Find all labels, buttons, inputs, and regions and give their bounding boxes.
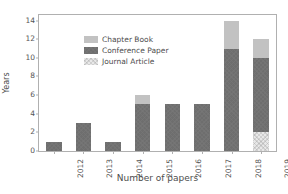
bar-chart-figure: Years 0246810121420122013201420152016201… bbox=[0, 0, 288, 194]
bar-segment-chapter bbox=[135, 95, 150, 104]
legend-swatch-journal bbox=[84, 58, 98, 65]
bar-segment-conference bbox=[165, 104, 180, 151]
bar-stack bbox=[165, 104, 180, 151]
bar-segment-chapter bbox=[253, 39, 268, 58]
y-axis-tick-mark bbox=[36, 113, 39, 114]
legend-item-conference: Conference Paper bbox=[84, 46, 168, 55]
bar-stack bbox=[76, 123, 91, 151]
bar-segment-conference bbox=[194, 104, 209, 151]
bar-segment-conference bbox=[46, 142, 61, 151]
y-axis-tick-label: 4 bbox=[30, 110, 35, 118]
x-axis-tick-mark bbox=[113, 151, 114, 154]
y-axis-tick-label: 0 bbox=[30, 147, 35, 155]
y-axis-tick-mark bbox=[36, 20, 39, 21]
bar-segment-chapter bbox=[224, 21, 239, 49]
legend-item-chapter: Chapter Book bbox=[84, 35, 168, 44]
y-axis-title: Years bbox=[2, 14, 12, 152]
bar-segment-journal bbox=[253, 132, 268, 151]
x-axis-tick-mark bbox=[261, 151, 262, 154]
legend-item-journal: Journal Article bbox=[84, 57, 168, 66]
bar-segment-conference bbox=[135, 104, 150, 151]
y-axis-tick-mark bbox=[36, 151, 39, 152]
bar-stack bbox=[194, 104, 209, 151]
y-axis-tick-label: 8 bbox=[30, 73, 35, 81]
y-axis-tick-mark bbox=[36, 76, 39, 77]
x-axis-tick-label: 2019 bbox=[284, 159, 288, 178]
x-axis-tick-mark bbox=[172, 151, 173, 154]
x-axis-tick-mark bbox=[54, 151, 55, 154]
x-axis-tick-mark bbox=[202, 151, 203, 154]
y-axis-tick-label: 2 bbox=[30, 129, 35, 137]
chart-legend: Chapter BookConference PaperJournal Arti… bbox=[81, 33, 172, 68]
bar-stack bbox=[105, 142, 120, 151]
y-axis-tick-label: 14 bbox=[25, 17, 35, 25]
legend-label: Journal Article bbox=[102, 58, 154, 66]
y-axis-tick-mark bbox=[36, 132, 39, 133]
bar-stack bbox=[224, 21, 239, 151]
legend-swatch-conference bbox=[84, 47, 98, 54]
y-axis-tick-label: 6 bbox=[30, 91, 35, 99]
x-axis-title: Number of papers bbox=[38, 174, 277, 183]
bar-stack bbox=[253, 39, 268, 151]
bar-segment-conference bbox=[253, 58, 268, 133]
y-axis-tick-mark bbox=[36, 39, 39, 40]
bar-stack bbox=[135, 95, 150, 151]
x-axis-tick-mark bbox=[232, 151, 233, 154]
bar-stack bbox=[46, 142, 61, 151]
legend-label: Conference Paper bbox=[102, 47, 168, 55]
x-axis-tick-mark bbox=[83, 151, 84, 154]
y-axis-title-text: Years bbox=[3, 72, 11, 93]
y-axis-tick-mark bbox=[36, 57, 39, 58]
plot-frame: 0246810121420122013201420152016201720182… bbox=[38, 14, 277, 152]
y-axis-tick-label: 12 bbox=[25, 35, 35, 43]
x-axis-tick-mark bbox=[143, 151, 144, 154]
legend-swatch-chapter bbox=[84, 36, 98, 43]
y-axis-tick-label: 10 bbox=[25, 54, 35, 62]
y-axis-tick-mark bbox=[36, 95, 39, 96]
legend-label: Chapter Book bbox=[102, 36, 153, 44]
bar-segment-conference bbox=[105, 142, 120, 151]
bar-segment-conference bbox=[76, 123, 91, 151]
bar-segment-conference bbox=[224, 49, 239, 151]
